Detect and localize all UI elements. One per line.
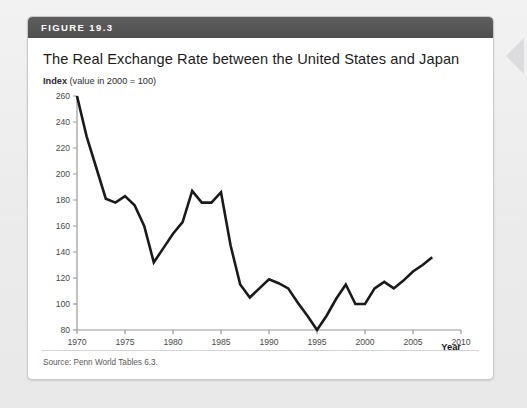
x-axis-tick-label: 1970 [67, 337, 86, 347]
line-chart-svg: 80100120140160180200220240260 1970197519… [43, 88, 473, 350]
x-axis-tick-label: 1975 [115, 337, 134, 347]
y-axis-tick-label: 100 [56, 299, 71, 309]
x-axis-tick-label: 1985 [211, 337, 230, 347]
x-axis-tick-label: 2005 [403, 337, 422, 347]
y-axis-tick-label: 180 [56, 195, 71, 205]
x-axis-title: Year [441, 342, 461, 350]
y-axis-tick-label: 220 [56, 143, 71, 153]
index-axis-note-bold: Index [43, 76, 67, 86]
x-axis-tick-label: 2000 [355, 337, 374, 347]
x-axis-tick-group: 197019751980198519901995200020052010 [67, 330, 470, 347]
y-axis-tick-label: 160 [56, 221, 71, 231]
y-axis-tick-label: 140 [56, 247, 71, 257]
figure-number-label: FIGURE 19.3 [41, 22, 113, 33]
page-edge-chevron-icon [500, 38, 524, 74]
y-axis-tick-label: 120 [56, 273, 71, 283]
source-caption: Source: Penn World Tables 6.3. [28, 351, 493, 367]
y-axis-tick-label: 240 [56, 117, 71, 127]
y-axis-tick-label: 200 [56, 169, 71, 179]
x-axis-tick-label: 1995 [307, 337, 326, 347]
index-axis-note-rest: (value in 2000 = 100) [67, 76, 156, 86]
chart-plot-area: 80100120140160180200220240260 1970197519… [43, 88, 473, 350]
figure-card: FIGURE 19.3 The Real Exchange Rate betwe… [27, 16, 494, 380]
y-axis-tick-group: 80100120140160180200220240260 [56, 91, 77, 335]
x-axis-tick-label: 1990 [259, 337, 278, 347]
figure-header-bar: FIGURE 19.3 [28, 17, 493, 38]
y-axis-tick-label: 80 [60, 325, 70, 335]
figure-title: The Real Exchange Rate between the Unite… [28, 38, 493, 67]
exchange-rate-line [77, 96, 432, 330]
y-axis-tick-label: 260 [56, 91, 71, 101]
x-axis-tick-label: 1980 [163, 337, 182, 347]
index-axis-note: Index (value in 2000 = 100) [28, 67, 493, 86]
